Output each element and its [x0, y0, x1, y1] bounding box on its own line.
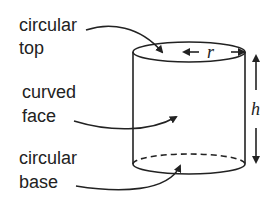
- leader-curved-face: [74, 117, 176, 129]
- cylinder-base-front: [133, 164, 245, 174]
- radius-label: r: [207, 42, 215, 62]
- cylinder-base-back: [133, 154, 245, 164]
- leader-circular-top: [86, 26, 162, 52]
- leader-circular-base: [76, 166, 180, 190]
- cylinder-diagram: r h: [0, 0, 274, 209]
- height-label: h: [251, 99, 260, 119]
